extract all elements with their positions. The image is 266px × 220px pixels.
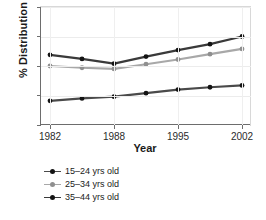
x-tick-label: 2002 (222, 131, 262, 142)
gridline-vertical (114, 7, 115, 125)
x-tick-label: 1995 (158, 131, 198, 142)
x-tick (178, 125, 179, 129)
data-point (208, 42, 213, 47)
y-tick (37, 7, 41, 8)
plot-area: 1982198819952002 (40, 7, 250, 125)
gridline-horizontal (41, 66, 251, 67)
gridline-horizontal (41, 96, 251, 97)
x-tick (242, 125, 243, 129)
data-point (80, 96, 85, 101)
line-chart: % Distribution 1982198819952002 05101520… (0, 0, 266, 220)
y-tick (37, 36, 41, 37)
legend-marker-icon (44, 168, 61, 175)
series-line (50, 37, 242, 64)
data-point (208, 52, 213, 57)
y-tick (37, 95, 41, 96)
gridline-vertical (50, 7, 51, 125)
gridline-horizontal (41, 7, 251, 8)
chart-legend: 15–24 yrs old25–34 yrs old35–44 yrs old (44, 166, 119, 202)
gridline-vertical (242, 7, 243, 125)
legend-label: 35–44 yrs old (65, 192, 119, 202)
legend-item[interactable]: 35–44 yrs old (44, 192, 119, 202)
legend-marker-icon (44, 181, 61, 188)
legend-item[interactable]: 25–34 yrs old (44, 179, 119, 189)
data-point (144, 54, 149, 59)
legend-item[interactable]: 15–24 yrs old (44, 166, 119, 176)
x-tick-label: 1988 (94, 131, 134, 142)
x-tick (50, 125, 51, 129)
y-tick (37, 125, 41, 126)
x-axis-title: Year (40, 142, 250, 154)
y-tick (37, 66, 41, 67)
legend-label: 25–34 yrs old (65, 179, 119, 189)
x-tick (114, 125, 115, 129)
y-axis-title: % Distribution (17, 0, 29, 95)
legend-marker-icon (44, 194, 61, 201)
data-point (208, 85, 213, 90)
gridline-vertical (178, 7, 179, 125)
data-point (80, 57, 85, 62)
gridline-horizontal (41, 37, 251, 38)
x-tick-label: 1982 (30, 131, 70, 142)
legend-label: 15–24 yrs old (65, 166, 119, 176)
